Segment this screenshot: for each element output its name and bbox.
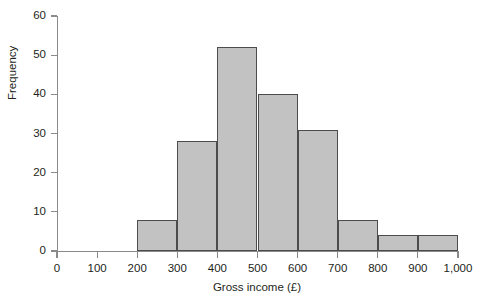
x-axis-tick	[56, 252, 57, 258]
histogram-bar	[378, 235, 418, 251]
x-axis-tick	[217, 252, 218, 258]
y-axis-tick-label: 20	[12, 167, 46, 179]
histogram-chart: Frequency 0102030405060 0100200300400500…	[0, 0, 486, 306]
x-axis-title: Gross income (£)	[0, 281, 486, 293]
x-axis-tick-label: 1,000	[431, 262, 485, 274]
x-axis-tick	[137, 252, 138, 258]
x-axis-tick	[177, 252, 178, 258]
x-axis-tick	[97, 252, 98, 258]
y-axis-tick-label: 0	[12, 245, 46, 257]
histogram-bar	[217, 47, 257, 251]
histogram-bar	[258, 94, 298, 251]
y-axis-tick-label: 10	[12, 206, 46, 218]
y-axis-tick-label: 40	[12, 88, 46, 100]
x-axis-tick	[457, 252, 458, 258]
histogram-bar	[137, 220, 177, 251]
x-axis-tick	[337, 252, 338, 258]
plot-area	[57, 16, 458, 251]
x-axis-tick	[417, 252, 418, 258]
y-axis-tick-label: 60	[12, 10, 46, 22]
x-axis-tick	[257, 252, 258, 258]
histogram-bar	[177, 141, 217, 251]
y-axis-tick-label: 30	[12, 128, 46, 140]
histogram-bar	[418, 235, 458, 251]
x-axis-tick	[297, 252, 298, 258]
x-axis-tick	[377, 252, 378, 258]
histogram-bar	[298, 130, 338, 251]
y-axis-tick-label: 50	[12, 49, 46, 61]
histogram-bar	[338, 220, 378, 251]
